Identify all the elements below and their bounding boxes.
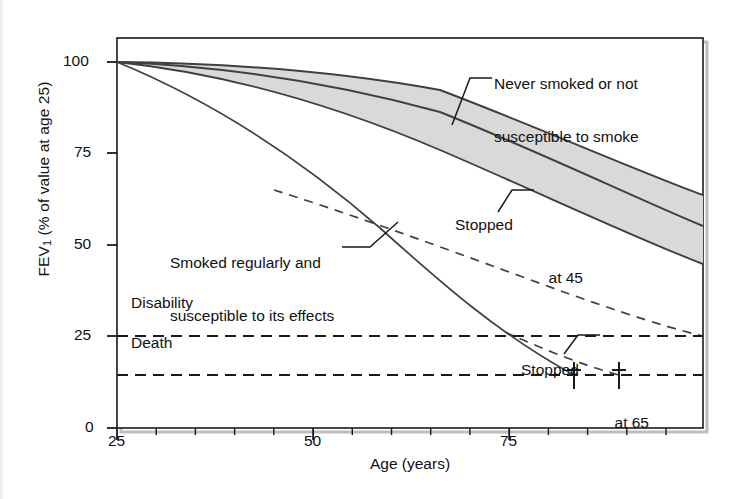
annotation-stopped-at-65: Stopped at 65 (521, 326, 649, 467)
annotation-stopped-at-45: Stopped at 45 (455, 181, 583, 322)
annotation-smoked-regularly-line2: susceptible to its effects (170, 307, 334, 325)
annotation-stopped-at-45-line1: Stopped (455, 216, 583, 234)
y-axis-label: FEV1 (% of value at age 25) (35, 69, 53, 289)
y-axis-ticks (107, 62, 117, 428)
y-tick-label-50: 50 (74, 235, 91, 253)
annotation-never-smoked-line1: Never smoked or not (494, 75, 639, 93)
y-tick-label-75: 75 (74, 143, 91, 161)
x-tick-label-50: 50 (304, 432, 321, 450)
death-label: Death (131, 334, 172, 351)
annotation-stopped-at-65-line2: at 65 (521, 414, 649, 432)
y-axis-label-suffix: (% of value at age 25) (35, 82, 52, 240)
annotation-smoked-regularly-line1: Smoked regularly and (170, 254, 334, 272)
annotation-never-smoked-line2: susceptible to smoke (494, 128, 639, 146)
y-tick-label-0: 0 (85, 418, 94, 436)
y-axis-label-prefix: FEV (35, 246, 52, 276)
annotation-stopped-at-45-line2: at 45 (455, 269, 583, 287)
y-tick-label-100: 100 (63, 52, 89, 70)
annotation-never-smoked: Never smoked or not susceptible to smoke (494, 40, 639, 181)
y-tick-label-25: 25 (74, 326, 91, 344)
annotation-stopped-at-65-line1: Stopped (521, 361, 649, 379)
y-axis-label-subscript: 1 (41, 240, 53, 246)
x-tick-label-75: 75 (500, 432, 517, 450)
fletcher-peto-chart: FEV1 (% of value at age 25) Age (years) … (0, 0, 741, 499)
annotation-smoked-regularly: Smoked regularly and susceptible to its … (170, 219, 334, 360)
x-tick-label-25: 25 (108, 432, 125, 450)
